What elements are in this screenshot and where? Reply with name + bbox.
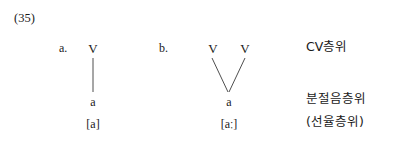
panel-a-transcription: [a] <box>86 118 99 130</box>
tier-label-melodic: (선율층위) <box>306 116 364 129</box>
panel-b-transcription: [aː] <box>221 118 238 130</box>
example-number: (35) <box>14 12 35 25</box>
association-line-b-2 <box>229 58 245 92</box>
association-line-b-1 <box>212 58 228 92</box>
panel-a-cv-node-1: V <box>88 42 97 55</box>
panel-b-cv-node-2: V <box>240 42 249 55</box>
tier-label-segmental: 분절음층위 <box>306 93 366 106</box>
panel-b-cv-node-1: V <box>208 42 217 55</box>
cv-tier-figure: (35) a. V a [a] b. V V a [aː] CV층위 분절음층위… <box>0 0 394 153</box>
panel-a-letter: a. <box>59 42 67 54</box>
panel-b-segment-node: a <box>226 96 231 108</box>
panel-b-letter: b. <box>159 42 168 54</box>
panel-a-segment-node: a <box>90 96 95 108</box>
association-lines <box>0 0 394 153</box>
tier-label-cv: CV층위 <box>306 41 347 54</box>
